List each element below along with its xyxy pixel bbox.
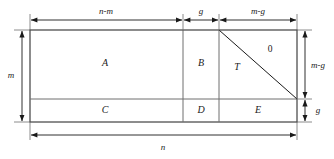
diagonal-line	[219, 30, 297, 99]
left-extension-ticks	[14, 30, 31, 122]
region-label-zero: 0	[268, 44, 273, 54]
top-extension-ticks	[30, 14, 297, 31]
region-label-t: T	[234, 61, 241, 72]
dim-label-m-minus-g-top: m-g	[251, 6, 265, 16]
dim-label-g-right: g	[316, 105, 321, 115]
right-extension-ticks	[296, 30, 312, 122]
dim-label-m-minus-g-right: m-g	[311, 60, 325, 70]
region-label-c: C	[102, 104, 109, 115]
dim-label-m: m	[8, 70, 15, 80]
dim-label-n: n	[161, 142, 166, 152]
region-label-e: E	[254, 104, 261, 115]
region-label-a: A	[101, 57, 109, 68]
diagram-canvas: A B T 0 C D E n-m g m-g m m-g g n	[0, 0, 334, 159]
region-label-b: B	[198, 57, 204, 68]
partition-diagram: A B T 0 C D E n-m g m-g m m-g g n	[0, 0, 334, 159]
dimension-labels: n-m g m-g m m-g g n	[8, 6, 326, 152]
bottom-extension-ticks	[30, 121, 297, 140]
dim-label-n-minus-m: n-m	[99, 6, 113, 16]
region-label-d: D	[196, 104, 205, 115]
dim-label-g-top: g	[199, 6, 204, 16]
